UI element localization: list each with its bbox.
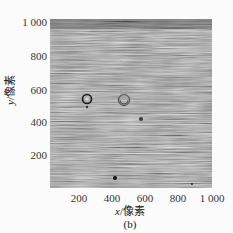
y-tick-200: 200 bbox=[3, 150, 47, 161]
noise-image bbox=[50, 19, 212, 188]
y-axis-unit: /像素 bbox=[4, 75, 16, 100]
dark-blob bbox=[139, 117, 143, 121]
dark-dot bbox=[113, 176, 117, 180]
y-axis-var: y bbox=[4, 100, 16, 105]
y-tick-1000: 1 000 bbox=[3, 17, 47, 28]
x-axis-label: x/像素 bbox=[110, 205, 150, 217]
y-tick-800: 800 bbox=[3, 51, 47, 62]
y-tick-400: 400 bbox=[3, 117, 47, 128]
x-tick-1000: 1 000 bbox=[192, 193, 232, 204]
y-axis-label: y/像素 bbox=[4, 75, 16, 105]
x-axis-unit: /像素 bbox=[120, 205, 145, 217]
image-plot-area bbox=[50, 19, 212, 188]
figure-caption: (b) bbox=[110, 218, 150, 230]
